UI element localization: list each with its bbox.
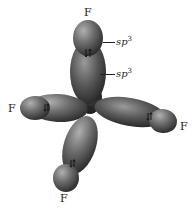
fluorine-label-left: F [8,103,16,114]
orbital-lobes [0,0,196,208]
bond-bottom [53,112,104,192]
f-sp3-lobe-top [73,20,103,56]
sp3-label-b: sp3 [116,68,132,79]
sp3-leader-line-f [103,42,115,43]
bond-right [92,92,179,135]
sp3-label-f: sp3 [116,36,132,47]
f-sp3-lobe-left [20,96,50,120]
f-sp3-lobe-bottom [53,164,79,192]
bf4-orbital-diagram: F F F F B sp3 sp3 [0,0,196,208]
sp3-leader-line-b [100,74,115,75]
fluorine-label-right: F [180,121,188,132]
bond-top [70,20,106,104]
boron-label: B [86,105,93,115]
fluorine-label-top: F [84,7,92,18]
fluorine-label-bottom: F [60,193,68,204]
